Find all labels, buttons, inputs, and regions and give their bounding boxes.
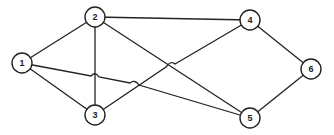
node-3: 3 [85,105,105,125]
node-5: 5 [240,108,260,128]
edge-4-6 [250,20,311,69]
node-label: 4 [247,15,252,25]
edge-2-4 [95,17,250,20]
node-4: 4 [240,10,260,30]
node-label: 2 [92,12,97,22]
edge-1-2 [22,17,95,63]
edge-1-3 [22,63,95,115]
network-graph: 1 2 3 4 5 6 [0,0,334,135]
node-1: 1 [12,53,32,73]
edges [22,17,311,118]
node-6: 6 [301,59,321,79]
node-label: 6 [308,64,313,74]
node-label: 5 [247,113,252,123]
node-2: 2 [85,7,105,27]
edge-5-6 [250,69,311,118]
node-label: 1 [19,58,24,68]
edge-2-5 [95,17,250,118]
nodes: 1 2 3 4 5 6 [12,7,321,128]
edge-1-5 [22,63,250,118]
node-label: 3 [92,110,97,120]
